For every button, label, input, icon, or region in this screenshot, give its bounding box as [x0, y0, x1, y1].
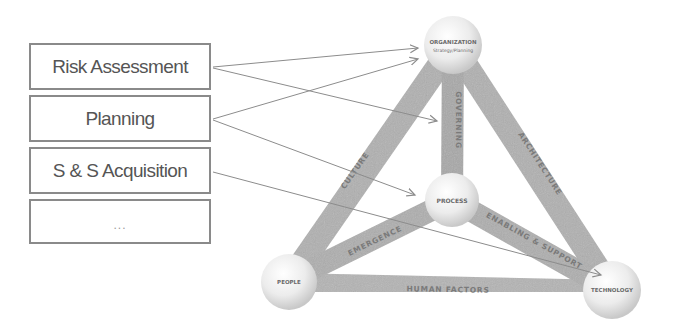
node-people: PEOPLE	[261, 254, 317, 310]
sphere-icon	[424, 16, 482, 74]
node-label-process: PROCESS	[437, 197, 468, 204]
edge-label-human-factors: HUMAN FACTORS	[406, 284, 489, 294]
node-organization: ORGANIZATION Strategy/Planning	[424, 16, 482, 74]
arrow-planning-to-organization	[213, 59, 418, 119]
node-label-technology: TECHNOLOGY	[591, 287, 634, 293]
node-label-people: PEOPLE	[277, 279, 301, 285]
node-technology: TECHNOLOGY	[583, 261, 641, 319]
node-label-organization: ORGANIZATION	[429, 39, 477, 45]
edge-label-governing: GOVERNING	[454, 91, 463, 149]
framework-diagram: CULTURE GOVERNING ARCHITECTURE EMERGENCE…	[0, 0, 673, 328]
arrow-risk-to-governing	[213, 68, 437, 121]
arrow-risk-to-organization	[213, 48, 418, 67]
node-process: PROCESS	[425, 173, 479, 227]
node-sublabel-organization: Strategy/Planning	[433, 48, 473, 53]
